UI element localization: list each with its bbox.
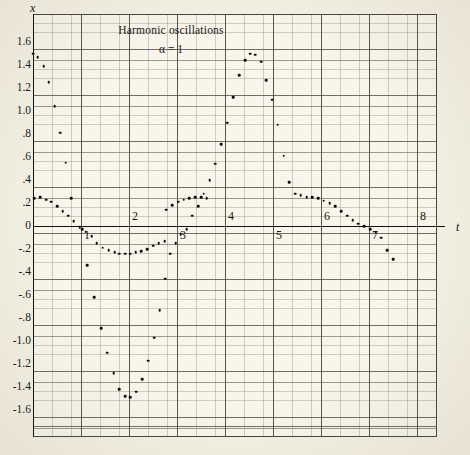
data-point bbox=[203, 193, 206, 196]
data-point bbox=[85, 230, 88, 233]
data-point bbox=[153, 336, 156, 339]
data-point bbox=[334, 205, 337, 208]
data-point bbox=[282, 155, 285, 158]
data-point bbox=[174, 242, 177, 245]
data-point bbox=[357, 222, 360, 225]
data-point bbox=[101, 247, 104, 250]
data-point bbox=[300, 194, 303, 197]
data-point bbox=[374, 232, 377, 235]
data-point bbox=[220, 143, 223, 146]
data-point bbox=[118, 252, 121, 255]
data-point bbox=[158, 309, 161, 312]
y-tick-label: -.6 bbox=[1, 289, 31, 301]
data-point bbox=[118, 388, 121, 391]
y-tick-label: .2 bbox=[1, 197, 31, 209]
data-point bbox=[157, 242, 160, 245]
y-axis-tick-labels: 1.61.41.21.0.8.6.4.20-.2-.4-.6-.8-1.0-1.… bbox=[0, 0, 31, 455]
data-point bbox=[86, 264, 89, 267]
data-point bbox=[124, 395, 127, 398]
data-point bbox=[226, 121, 229, 124]
data-point bbox=[164, 278, 167, 281]
data-point bbox=[363, 225, 366, 228]
data-point bbox=[244, 59, 247, 62]
data-point bbox=[188, 197, 191, 200]
x-tick-label: 8 bbox=[420, 210, 426, 222]
data-point bbox=[169, 252, 172, 255]
data-point bbox=[254, 53, 257, 56]
data-point bbox=[346, 214, 349, 217]
data-point bbox=[39, 196, 42, 199]
data-point bbox=[180, 233, 183, 236]
data-point bbox=[165, 209, 168, 212]
y-tick-label: -1.4 bbox=[1, 381, 31, 393]
data-point bbox=[205, 197, 208, 200]
y-tick-label: 0 bbox=[1, 220, 31, 232]
data-point bbox=[271, 98, 274, 101]
data-point bbox=[351, 219, 354, 222]
data-point bbox=[42, 65, 45, 68]
data-point bbox=[369, 228, 372, 231]
y-tick-label: -.8 bbox=[1, 312, 31, 324]
data-point bbox=[317, 197, 320, 200]
data-point bbox=[56, 205, 59, 208]
figure-canvas: 1.61.41.21.0.8.6.4.20-.2-.4-.6-.8-1.0-1.… bbox=[0, 0, 470, 455]
y-tick-label: .8 bbox=[1, 128, 31, 140]
y-tick-label: -1.2 bbox=[1, 358, 31, 370]
data-point bbox=[260, 60, 263, 63]
data-point bbox=[214, 163, 217, 166]
data-point bbox=[249, 52, 252, 55]
x-tick-label: 6 bbox=[324, 210, 330, 222]
data-point bbox=[328, 202, 331, 205]
x-tick-label: 5 bbox=[276, 229, 282, 241]
data-point bbox=[90, 235, 93, 238]
data-point bbox=[232, 96, 235, 99]
data-point bbox=[140, 250, 143, 253]
data-point bbox=[61, 210, 64, 213]
data-point bbox=[200, 196, 203, 199]
data-point bbox=[277, 124, 280, 127]
data-point bbox=[177, 201, 180, 204]
data-point bbox=[323, 199, 326, 202]
data-point bbox=[135, 390, 138, 393]
data-point bbox=[93, 296, 96, 299]
data-point bbox=[73, 220, 76, 223]
y-tick-label: 1.0 bbox=[1, 105, 31, 117]
data-point bbox=[50, 201, 53, 204]
data-point bbox=[380, 236, 383, 239]
data-point bbox=[37, 56, 40, 59]
y-tick-label: -1.6 bbox=[1, 404, 31, 416]
y-tick-label: 1.4 bbox=[1, 59, 31, 71]
y-tick-label: -1.0 bbox=[1, 335, 31, 347]
data-point bbox=[208, 179, 211, 182]
data-point bbox=[106, 351, 109, 354]
data-point bbox=[238, 74, 241, 77]
y-tick-label: 1.2 bbox=[1, 82, 31, 94]
data-point bbox=[392, 258, 395, 261]
data-point bbox=[152, 244, 155, 247]
y-tick-label: -.2 bbox=[1, 243, 31, 255]
x-tick-label: 2 bbox=[132, 210, 138, 222]
data-point bbox=[129, 396, 132, 399]
data-point bbox=[386, 249, 389, 252]
data-point bbox=[81, 228, 84, 231]
data-point bbox=[163, 240, 166, 243]
y-tick-label: .6 bbox=[1, 151, 31, 163]
data-point bbox=[294, 193, 297, 196]
data-point bbox=[191, 214, 194, 217]
data-point bbox=[197, 205, 200, 208]
data-point bbox=[134, 251, 137, 254]
data-point bbox=[288, 181, 291, 184]
data-point bbox=[67, 214, 70, 217]
y-tick-label: 1.6 bbox=[1, 36, 31, 48]
data-point bbox=[146, 248, 149, 251]
data-point bbox=[171, 204, 174, 207]
data-point bbox=[305, 196, 308, 199]
data-point bbox=[129, 252, 132, 255]
data-point bbox=[147, 359, 150, 362]
data-point bbox=[182, 198, 185, 201]
data-point bbox=[141, 378, 144, 381]
x-axis-title: t bbox=[456, 220, 459, 235]
y-tick-label: -.4 bbox=[1, 266, 31, 278]
data-point bbox=[53, 105, 56, 108]
data-point bbox=[64, 161, 67, 164]
